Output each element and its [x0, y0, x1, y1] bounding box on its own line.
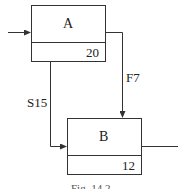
node-b-value: 12 — [122, 159, 135, 172]
diagram-canvas: A 20 B 12 F7 S15 Fig. 14.2 — [0, 0, 186, 189]
figure-caption: Fig. 14.2 — [71, 183, 110, 189]
node-a-label: A — [63, 17, 73, 31]
edge-f7 — [106, 33, 123, 118]
node-a-value: 20 — [86, 46, 99, 59]
node-b-label: B — [99, 130, 108, 144]
edge-s15 — [51, 62, 67, 147]
edge-f7-label: F7 — [126, 71, 140, 84]
edge-s15-label: S15 — [27, 96, 47, 109]
